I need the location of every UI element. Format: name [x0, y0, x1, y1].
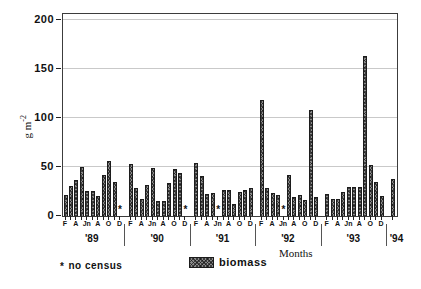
bar-93-m10: [380, 196, 384, 216]
month-label: Jn: [148, 220, 156, 227]
bar-90-m5: [156, 201, 160, 216]
y-tick: [56, 117, 61, 118]
legend-label: biomass: [219, 256, 267, 268]
y-tick: [56, 68, 61, 69]
bar-91-m0: [194, 163, 198, 216]
month-label: F: [194, 220, 198, 227]
x-axis-title: Months: [279, 247, 313, 259]
x-tick: [244, 216, 245, 220]
x-tick: [332, 216, 333, 220]
bar-90-m6: [162, 201, 166, 216]
x-tick: [146, 216, 147, 220]
asterisk-icon: *: [60, 261, 64, 272]
month-label: A: [270, 220, 275, 227]
x-tick: [266, 216, 267, 220]
bar-92-m5: [287, 175, 291, 216]
bar-93-m7: [363, 56, 367, 216]
no-census-asterisk: *: [216, 205, 220, 215]
month-label: O: [237, 220, 242, 227]
x-tick: [81, 216, 82, 220]
x-tick: [135, 216, 136, 220]
bar-92-m8: [303, 200, 307, 216]
bar-89-m2: [74, 180, 78, 216]
bar-93-m4: [347, 187, 351, 216]
month-label: A: [161, 220, 166, 227]
bar-89-m7: [102, 175, 106, 216]
x-tick: [201, 216, 202, 220]
bar-91-m1: [200, 176, 204, 216]
legend: biomass: [189, 256, 267, 268]
bar-89-m8: [107, 161, 111, 216]
bar-92-m9: [309, 110, 313, 216]
bar-90-m4: [151, 168, 155, 216]
bar-89-m5: [91, 191, 95, 216]
month-label: F: [63, 220, 67, 227]
no-census-asterisk: *: [183, 205, 187, 215]
legend-swatch-hatched: [189, 257, 214, 268]
month-label: A: [73, 220, 78, 227]
bar-92-m7: [298, 195, 302, 216]
bar-91-m8: [238, 192, 242, 216]
bar-89-m4: [85, 191, 89, 216]
month-label: A: [357, 220, 362, 227]
x-tick: [233, 216, 234, 220]
x-tick: [212, 216, 213, 220]
bar-92-m1: [265, 188, 269, 216]
bar-89-m3: [80, 167, 84, 216]
x-tick: [375, 216, 376, 220]
month-label: A: [335, 220, 340, 227]
y-tick: [56, 166, 61, 167]
month-label: O: [367, 220, 372, 227]
bar-93-m1: [331, 199, 335, 216]
month-label: A: [204, 220, 209, 227]
bar-93-m0: [325, 194, 329, 216]
month-label: O: [171, 220, 176, 227]
bar-92-m2: [271, 193, 275, 216]
month-label: A: [291, 220, 296, 227]
month-label: O: [106, 220, 111, 227]
bar-93-m9: [374, 182, 378, 216]
bar-90-m1: [134, 188, 138, 216]
month-label: F: [128, 220, 132, 227]
y-tick: [56, 19, 61, 20]
year-separator: [190, 224, 191, 246]
bar-89-m9: [113, 182, 117, 216]
x-tick: [342, 216, 343, 220]
month-label: D: [379, 220, 384, 227]
bar-89-m1: [69, 186, 73, 216]
month-label: Jn: [279, 220, 287, 227]
bar-90-m9: [178, 173, 182, 216]
month-label: D: [313, 220, 318, 227]
month-label: A: [95, 220, 100, 227]
x-tick: [157, 216, 158, 220]
gridline-200: [63, 19, 397, 20]
bar-94-m0: [391, 179, 395, 216]
gridline-150: [63, 68, 397, 69]
month-label: Jn: [83, 220, 91, 227]
year-separator: [255, 224, 256, 246]
x-tick: [179, 216, 180, 220]
x-tick: [353, 216, 354, 220]
bar-90-m3: [145, 185, 149, 216]
bar-93-m5: [352, 187, 356, 216]
x-tick: [364, 216, 365, 220]
bar-91-m10: [249, 188, 253, 216]
bar-91-m5: [222, 190, 226, 216]
bar-93-m3: [341, 192, 345, 216]
month-label: A: [139, 220, 144, 227]
x-tick: [310, 216, 311, 220]
month-label: D: [182, 220, 187, 227]
y-tick-label: 200: [28, 13, 54, 25]
bar-91-m2: [205, 194, 209, 216]
x-tick: [223, 216, 224, 220]
bar-90-m8: [173, 169, 177, 216]
year-label: '91: [216, 233, 230, 244]
bar-93-m6: [358, 187, 362, 216]
year-label: '92: [281, 233, 295, 244]
x-tick: [392, 216, 393, 220]
bar-91-m6: [227, 190, 231, 216]
month-label: D: [117, 220, 122, 227]
x-tick: [114, 216, 115, 220]
biomass-bar-chart: g m-2 **** 050100150200FAJnAOD'89FAJnAOD…: [0, 0, 421, 289]
bar-90-m2: [140, 199, 144, 216]
